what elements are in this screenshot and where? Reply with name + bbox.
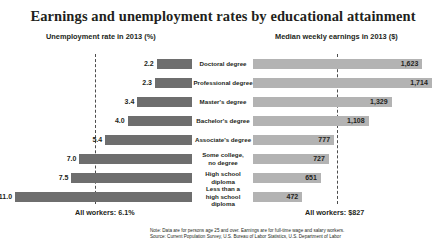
unemployment-bar bbox=[137, 97, 192, 107]
earnings-value: 1,329 bbox=[366, 96, 388, 107]
right-axis-header: Median weekly earnings in 2013 ($) bbox=[275, 32, 398, 41]
unemployment-value: 3.4 bbox=[125, 96, 135, 107]
earnings-value: 727 bbox=[303, 153, 325, 164]
table-row: 1,714 bbox=[253, 73, 446, 92]
left-axis-header: Unemployment rate in 2013 (%) bbox=[46, 32, 156, 41]
table-row: 7.0 bbox=[0, 149, 193, 168]
earnings-value: 1,108 bbox=[343, 115, 365, 126]
unemployment-value: 11.0 bbox=[0, 191, 12, 202]
earnings-value: 1,714 bbox=[406, 77, 428, 88]
table-row: 1,623 bbox=[253, 54, 446, 73]
unemployment-bar bbox=[155, 78, 192, 88]
table-row: 727 bbox=[253, 149, 446, 168]
unemployment-panel: 2.22.33.44.05.47.07.511.0 bbox=[0, 54, 193, 204]
unemployment-value: 2.2 bbox=[144, 58, 154, 69]
earnings-value: 777 bbox=[308, 134, 330, 145]
unemployment-value: 7.0 bbox=[67, 153, 77, 164]
footnote: Note: Data are for persons age 25 and ov… bbox=[150, 228, 440, 240]
unemployment-bar bbox=[15, 192, 192, 202]
category-label: High school diploma bbox=[193, 168, 253, 187]
earnings-value: 651 bbox=[295, 172, 317, 183]
earnings-value: 1,623 bbox=[396, 58, 418, 69]
unemployment-value: 5.4 bbox=[92, 134, 102, 145]
category-label: Bachelor's degree bbox=[193, 111, 253, 130]
chart-container: Earnings and unemployment rates by educa… bbox=[0, 0, 446, 250]
table-row: 2.3 bbox=[0, 73, 193, 92]
unemployment-bar bbox=[105, 135, 192, 145]
table-row: 11.0 bbox=[0, 187, 193, 206]
summary-left: All workers: 6.1% bbox=[75, 208, 135, 217]
category-label: Doctoral degree bbox=[193, 54, 253, 73]
unemployment-value: 2.3 bbox=[142, 77, 152, 88]
unemployment-value: 7.5 bbox=[59, 172, 69, 183]
table-row: 4.0 bbox=[0, 111, 193, 130]
category-label: Some college,no degree bbox=[193, 149, 253, 168]
category-labels: Doctoral degreeProfessional degreeMaster… bbox=[193, 54, 253, 204]
category-label: Less than ahigh school diploma bbox=[193, 187, 253, 206]
unemployment-bar bbox=[128, 116, 192, 126]
category-label: Associate's degree bbox=[193, 130, 253, 149]
earnings-value: 472 bbox=[276, 191, 298, 202]
table-row: 5.4 bbox=[0, 130, 193, 149]
earnings-panel: 1,6231,7141,3291,108777727651472 bbox=[253, 54, 446, 204]
page-title: Earnings and unemployment rates by educa… bbox=[0, 8, 446, 25]
table-row: 1,108 bbox=[253, 111, 446, 130]
table-row: 3.4 bbox=[0, 92, 193, 111]
unemployment-bar bbox=[79, 154, 192, 164]
unemployment-bar bbox=[71, 173, 192, 183]
footnote-source: Source: Current Population Survey, U.S. … bbox=[150, 234, 440, 240]
table-row: 472 bbox=[253, 187, 446, 206]
table-row: 651 bbox=[253, 168, 446, 187]
summary-right: All workers: $827 bbox=[305, 208, 364, 217]
table-row: 7.5 bbox=[0, 168, 193, 187]
category-label: Master's degree bbox=[193, 92, 253, 111]
table-row: 2.2 bbox=[0, 54, 193, 73]
unemployment-value: 4.0 bbox=[115, 115, 125, 126]
table-row: 777 bbox=[253, 130, 446, 149]
unemployment-bar bbox=[157, 59, 192, 69]
category-label: Professional degree bbox=[193, 73, 253, 92]
table-row: 1,329 bbox=[253, 92, 446, 111]
